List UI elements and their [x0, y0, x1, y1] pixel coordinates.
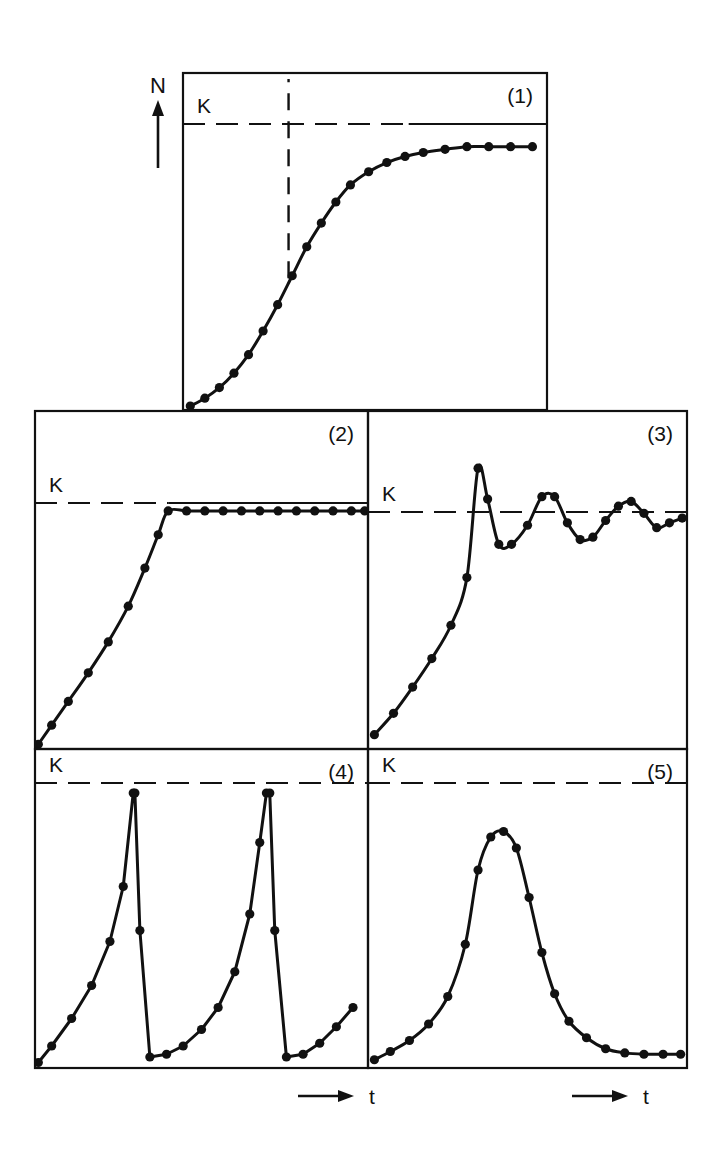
- data-point: [230, 967, 239, 976]
- panel-frame-2: [35, 411, 368, 749]
- x-axis-label-right: t: [643, 1085, 649, 1108]
- data-point: [282, 1052, 291, 1061]
- carrying-capacity-label-3: K: [382, 482, 396, 505]
- data-point: [370, 1055, 379, 1064]
- data-point: [652, 523, 661, 532]
- data-point: [197, 1025, 206, 1034]
- data-point: [419, 148, 428, 157]
- panel-label-2: (2): [328, 422, 354, 445]
- data-point: [486, 832, 495, 841]
- data-point: [601, 1044, 610, 1053]
- data-point: [523, 521, 532, 530]
- data-point: [237, 506, 246, 515]
- x-axis-label-left: t: [369, 1085, 375, 1108]
- data-point: [627, 497, 636, 506]
- data-point: [440, 145, 449, 154]
- carrying-capacity-label-2: K: [49, 473, 63, 496]
- y-axis-group: N: [150, 73, 166, 168]
- data-point: [84, 668, 93, 677]
- data-point: [639, 509, 648, 518]
- data-point: [288, 271, 297, 280]
- panel-label-4: (4): [328, 760, 354, 783]
- x-axis-arrowhead-right: [612, 1090, 628, 1102]
- data-point: [400, 152, 409, 161]
- y-axis-arrowhead: [152, 100, 164, 116]
- data-point: [214, 1003, 223, 1012]
- data-point: [525, 893, 534, 902]
- data-point: [483, 494, 492, 503]
- data-point: [130, 788, 139, 797]
- data-point: [229, 369, 238, 378]
- data-point: [446, 621, 455, 630]
- data-point: [255, 838, 264, 847]
- panel-5: K(5): [368, 749, 687, 1068]
- data-point: [364, 167, 373, 176]
- panel-4: K(4): [34, 749, 368, 1068]
- data-point: [104, 637, 113, 646]
- data-point: [186, 401, 195, 410]
- data-point: [328, 506, 337, 515]
- data-point: [550, 492, 559, 501]
- data-point: [273, 506, 282, 515]
- data-point: [346, 180, 355, 189]
- data-point: [315, 1039, 324, 1048]
- data-point: [473, 865, 482, 874]
- data-point: [200, 506, 209, 515]
- data-point: [408, 683, 417, 692]
- panel-frame-5: [368, 749, 687, 1068]
- data-point: [200, 394, 209, 403]
- data-point: [563, 518, 572, 527]
- data-point: [507, 540, 516, 549]
- data-point: [105, 937, 114, 946]
- x-axis-group-right: t: [572, 1085, 649, 1108]
- data-point: [461, 940, 470, 949]
- data-point: [512, 843, 521, 852]
- data-point: [67, 1014, 76, 1023]
- data-point: [462, 142, 471, 151]
- data-point: [270, 926, 279, 935]
- y-axis-label: N: [150, 73, 166, 98]
- data-point: [244, 350, 253, 359]
- data-point: [588, 533, 597, 542]
- data-point: [162, 1050, 171, 1059]
- data-point: [386, 1047, 395, 1056]
- x-axis-group-left: t: [298, 1085, 375, 1108]
- x-axis-arrowhead-left: [338, 1090, 354, 1102]
- panel-2: K(2): [34, 411, 370, 749]
- panel-label-1: (1): [507, 84, 533, 107]
- panel-1: K(1): [183, 73, 547, 411]
- data-point: [47, 1041, 56, 1050]
- data-point: [255, 506, 264, 515]
- panel-frame-4: [35, 749, 368, 1068]
- data-point: [494, 540, 503, 549]
- data-point: [310, 506, 319, 515]
- data-point: [258, 326, 267, 335]
- data-point: [332, 1022, 341, 1031]
- data-point: [47, 721, 56, 730]
- data-point: [140, 564, 149, 573]
- data-point: [265, 788, 274, 797]
- data-point: [564, 1017, 573, 1026]
- data-point: [550, 989, 559, 998]
- data-point: [317, 218, 326, 227]
- data-point: [64, 697, 73, 706]
- panel-label-5: (5): [647, 760, 673, 783]
- data-point: [245, 909, 254, 918]
- data-point: [665, 518, 674, 527]
- data-point: [34, 740, 43, 749]
- carrying-capacity-label-5: K: [382, 753, 396, 776]
- data-point: [87, 981, 96, 990]
- data-point: [427, 654, 436, 663]
- data-point: [389, 709, 398, 718]
- data-point: [443, 992, 452, 1001]
- data-point: [601, 516, 610, 525]
- data-point: [119, 882, 128, 891]
- panel-3: K(3): [368, 411, 687, 749]
- data-point: [273, 300, 282, 309]
- data-point: [302, 242, 311, 251]
- data-point: [382, 158, 391, 167]
- data-point: [164, 506, 173, 515]
- data-point: [348, 1003, 357, 1012]
- data-point: [462, 573, 471, 582]
- data-point: [292, 506, 301, 515]
